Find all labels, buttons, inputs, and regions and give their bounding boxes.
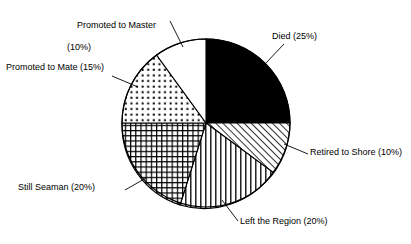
leader-line-died bbox=[265, 44, 284, 64]
pie-label-died: Died (25%) bbox=[272, 31, 317, 42]
pie-label-still-seaman: Still Seaman (20%) bbox=[18, 182, 95, 193]
pie-label-retired-to-shore: Retired to Shore (10%) bbox=[310, 147, 402, 158]
pie-chart-figure: Died (25%) Retired to Shore (10%) Left t… bbox=[0, 0, 411, 244]
leader-line-retired-to-shore bbox=[284, 144, 308, 154]
pie-chart-svg bbox=[0, 0, 411, 244]
pie-label-promoted-to-master-line1: Promoted to Master bbox=[77, 20, 156, 30]
leader-line-promoted-to-master bbox=[170, 21, 183, 47]
leader-line-still-seaman bbox=[125, 178, 146, 190]
pie-label-promoted-to-master-line2: (10%) bbox=[67, 42, 156, 53]
pie-label-promoted-to-master: Promoted to Master (10%) bbox=[67, 9, 156, 75]
pie-label-left-the-region: Left the Region (20%) bbox=[240, 216, 328, 227]
